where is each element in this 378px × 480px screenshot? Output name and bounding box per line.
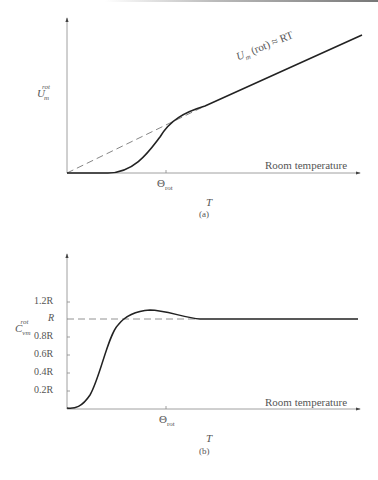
figure-plots bbox=[0, 0, 378, 480]
panel-b-axes bbox=[67, 254, 360, 409]
panel-b-tick-0.4R: 0.4R bbox=[34, 366, 53, 377]
panel-a-xlabel: T bbox=[206, 196, 212, 208]
panel-a-room-temperature: Room temperature bbox=[265, 159, 347, 171]
panel-b-tick-1.2R: 1.2R bbox=[34, 295, 53, 306]
panel-a-curve bbox=[67, 35, 362, 173]
panel-a-theta-rot: Θrot bbox=[157, 177, 173, 192]
panel-a-ylabel: Umrot bbox=[37, 86, 58, 102]
panel-b-curve bbox=[67, 310, 358, 408]
panel-b-caption: (b) bbox=[199, 446, 210, 456]
panel-b-theta-rot: Θrot bbox=[159, 413, 175, 428]
panel-b-tick-R: R bbox=[48, 312, 54, 323]
panel-a-caption: (a) bbox=[199, 209, 209, 219]
panel-b-xlabel: T bbox=[206, 432, 212, 444]
panel-b-tick-0.2R: 0.2R bbox=[34, 384, 53, 395]
panel-b-tick-0.8R: 0.8R bbox=[34, 330, 53, 341]
panel-b-room-temperature: Room temperature bbox=[265, 396, 347, 408]
panel-a-axes bbox=[67, 18, 360, 173]
panel-b-tick-0.6R: 0.6R bbox=[34, 348, 53, 359]
